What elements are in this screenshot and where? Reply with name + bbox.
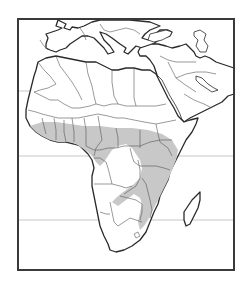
map-container — [0, 0, 244, 281]
black-sea — [148, 30, 172, 42]
africa-distribution-map — [0, 0, 244, 281]
madagascar — [184, 192, 200, 226]
caspian-sea — [194, 30, 208, 52]
